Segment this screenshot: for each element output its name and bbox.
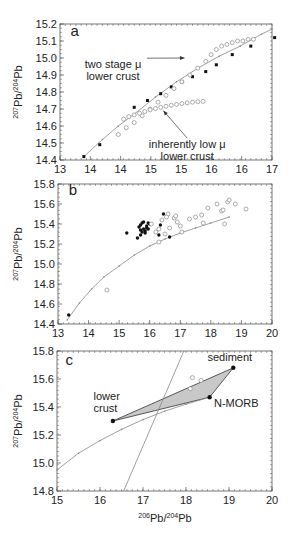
open-marker <box>209 53 213 57</box>
filled-marker <box>125 231 128 234</box>
open-marker <box>233 202 237 206</box>
annotation-text: lower crust <box>86 70 139 82</box>
open-marker <box>188 387 192 391</box>
y-tick-label: 14.4 <box>36 154 57 166</box>
curve-line <box>57 397 210 470</box>
open-marker <box>174 214 178 218</box>
annotation-text: crust <box>94 402 118 414</box>
open-marker <box>168 226 172 230</box>
y-tick-label: 15.6 <box>33 373 54 385</box>
open-marker <box>199 378 203 382</box>
filled-marker <box>215 63 218 66</box>
open-marker <box>157 227 161 231</box>
curve-tick <box>142 419 144 421</box>
annotation-arrow <box>163 111 187 138</box>
annotation-text: N-MORB <box>214 397 259 409</box>
panel-a-ylabel: 207Pb/204Pb <box>12 65 24 118</box>
y-tick-label: 14.6 <box>36 120 57 132</box>
curve-tick <box>118 265 120 267</box>
filled-marker <box>249 45 252 48</box>
open-marker <box>196 100 200 104</box>
panel-c-ylabel: 207Pb/204Pb <box>12 394 24 447</box>
annotation-text: inherently low μ <box>149 138 226 150</box>
x-tick-label: 14 <box>114 163 126 175</box>
open-marker <box>201 221 205 225</box>
annotation-text: sediment <box>208 351 253 363</box>
y-tick-label: 15.8 <box>33 345 54 357</box>
panel-c: 15161718192014.815.015.215.415.615.8clow… <box>33 345 279 506</box>
y-tick-label: 15.8 <box>34 178 55 190</box>
open-marker <box>227 198 231 202</box>
y-tick-label: 15.4 <box>34 218 55 230</box>
x-tick-label: 19 <box>235 327 247 339</box>
open-marker <box>143 110 147 114</box>
curve-tick <box>261 33 263 35</box>
open-marker <box>244 207 248 211</box>
x-tick-label: 17 <box>174 327 186 339</box>
filled-marker <box>162 212 165 215</box>
open-marker <box>148 108 152 112</box>
x-tick-label: 17 <box>266 163 278 175</box>
open-marker <box>124 126 128 130</box>
curve-tick <box>56 469 58 471</box>
open-marker <box>221 208 225 212</box>
open-marker <box>230 41 234 45</box>
panel-c-xlabel: 206Pb/204Pb <box>138 512 191 524</box>
panel-b: 131415161718192014.414.614.815.015.215.4… <box>34 178 279 339</box>
open-marker <box>164 104 168 108</box>
open-marker <box>241 39 245 43</box>
y-tick-label: 14.6 <box>34 298 55 310</box>
curve-tick <box>218 56 220 58</box>
y-tick-label: 15.0 <box>36 52 57 64</box>
curve-tick <box>271 28 273 30</box>
y-tick-label: 15.0 <box>34 258 55 270</box>
y-tick-label: 14.7 <box>36 103 57 115</box>
panel-label: b <box>69 181 77 198</box>
open-marker <box>196 66 200 70</box>
y-tick-label: 15.1 <box>36 35 57 47</box>
y-tick-label: 15.0 <box>33 457 54 469</box>
y-tick-label: 14.9 <box>36 69 57 81</box>
y-tick-label: 14.8 <box>36 86 57 98</box>
curve-tick <box>78 452 80 454</box>
open-marker <box>204 59 208 63</box>
curve-tick <box>185 403 187 405</box>
open-marker <box>187 217 191 221</box>
curve-tick <box>134 254 136 256</box>
filled-marker <box>273 36 276 39</box>
filled-marker <box>139 233 142 236</box>
open-marker <box>105 288 109 292</box>
x-tick-label: 16 <box>94 494 106 506</box>
curve-tick <box>66 319 68 321</box>
annotation-text: two stage μ <box>85 58 141 70</box>
open-marker <box>116 133 120 137</box>
open-marker <box>214 48 218 52</box>
filled-marker <box>204 70 207 73</box>
y-tick-label: 14.8 <box>33 485 54 497</box>
open-marker <box>163 232 167 236</box>
figure: 131414151516161714.414.514.614.714.814.9… <box>0 0 291 534</box>
curve-tick <box>164 410 166 412</box>
x-tick-label: 15 <box>145 163 157 175</box>
plot-frame <box>57 351 272 491</box>
open-marker <box>160 218 164 222</box>
filled-marker <box>146 227 149 230</box>
open-marker <box>215 202 219 206</box>
curve-tick <box>102 139 104 141</box>
open-marker <box>180 230 184 234</box>
curve-tick <box>149 245 151 247</box>
open-marker <box>185 101 189 105</box>
x-tick-label: 15 <box>175 163 187 175</box>
filled-marker <box>159 92 162 95</box>
filled-marker <box>133 106 136 109</box>
panel-a: 131414151516161714.414.514.614.714.814.9… <box>36 18 279 175</box>
open-marker <box>159 105 163 109</box>
curve-tick <box>118 125 120 127</box>
x-tick-label: 20 <box>266 327 278 339</box>
filled-marker <box>231 53 234 56</box>
open-marker <box>180 80 184 84</box>
open-marker <box>190 376 194 380</box>
filled-marker <box>143 231 146 234</box>
x-tick-label: 16 <box>144 327 156 339</box>
open-marker <box>188 73 192 77</box>
